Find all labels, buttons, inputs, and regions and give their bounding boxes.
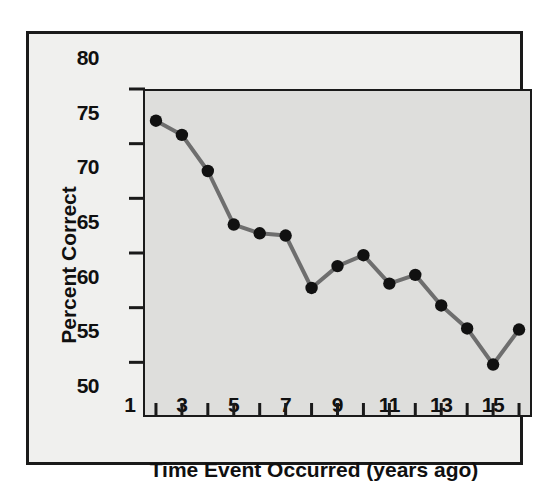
- data-point-marker: [279, 229, 291, 241]
- data-point-marker: [487, 358, 499, 370]
- data-point-marker: [254, 227, 266, 239]
- data-point-marker: [383, 277, 395, 289]
- data-point-markers: [150, 115, 525, 371]
- data-point-marker: [461, 322, 473, 334]
- data-point-marker: [305, 282, 317, 294]
- figure-frame: Percent Correct Time Event Occurred (yea…: [26, 31, 523, 465]
- data-point-marker: [435, 299, 447, 311]
- data-point-marker: [357, 249, 369, 261]
- data-point-marker: [202, 165, 214, 177]
- chart-plot-svg: [29, 34, 553, 490]
- data-point-marker: [150, 115, 162, 127]
- axis-ticks: [129, 89, 519, 415]
- data-point-marker: [409, 269, 421, 281]
- data-point-marker: [176, 129, 188, 141]
- data-point-marker: [331, 260, 343, 272]
- chart-figure: Percent Correct Time Event Occurred (yea…: [0, 0, 553, 490]
- data-point-marker: [228, 218, 240, 230]
- data-point-marker: [513, 323, 525, 335]
